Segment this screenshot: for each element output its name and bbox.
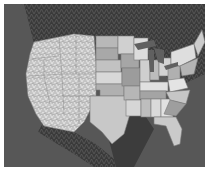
map-canvas <box>4 4 205 167</box>
us-map <box>4 4 205 167</box>
